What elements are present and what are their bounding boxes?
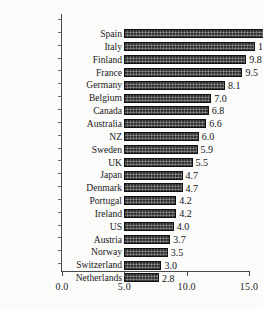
x-axis-tick: [62, 272, 63, 276]
bar-value-label: 7.0: [214, 93, 227, 104]
bar-value-label: 10.5: [258, 41, 263, 52]
y-axis-tick: [58, 225, 61, 226]
bar-row: Germany8.1: [62, 79, 263, 92]
category-label: NZ: [109, 131, 122, 142]
category-label: Switzerland: [76, 259, 122, 270]
bar-chart-figure: Spain14.1Italy10.5Finland9.8France9.5Ger…: [0, 0, 263, 309]
y-axis-tick: [58, 250, 61, 251]
y-axis-tick: [58, 135, 61, 136]
category-label: Portugal: [89, 195, 122, 206]
bar: [124, 68, 242, 77]
bar-value-label: 5.9: [201, 144, 214, 155]
bar-row: Finland9.8: [62, 54, 263, 67]
bar-value-label: 4.2: [179, 195, 192, 206]
bar-row: Canada6.8: [62, 105, 263, 118]
bar: [124, 55, 246, 64]
bar-row: Japan4.7: [62, 169, 263, 182]
y-axis-tick: [58, 148, 61, 149]
bar-value-label: 3.5: [171, 247, 184, 258]
category-label: Japan: [100, 169, 122, 180]
bar: [124, 132, 199, 141]
category-label: Germany: [86, 79, 122, 90]
bar-value-label: 4.2: [179, 208, 192, 219]
bar: [124, 196, 176, 205]
y-axis-tick: [58, 122, 61, 123]
bar-row: UK5.5: [62, 157, 263, 170]
category-label: Australia: [87, 118, 122, 129]
bar-value-label: 4.7: [186, 170, 199, 181]
bar-row: US4.0: [62, 221, 263, 234]
bar: [124, 222, 174, 231]
y-axis-tick: [58, 173, 61, 174]
bar: [124, 81, 225, 90]
bar: [124, 183, 183, 192]
bar-value-label: 4.7: [186, 183, 199, 194]
bar-row: Australia6.6: [62, 118, 263, 131]
category-label: Spain: [100, 28, 122, 39]
category-label: Austria: [94, 234, 122, 245]
y-axis-tick: [58, 212, 61, 213]
x-axis-tick: [249, 272, 250, 276]
category-label: US: [110, 221, 122, 232]
bar: [124, 145, 198, 154]
plot-area: Spain14.1Italy10.5Finland9.8France9.5Ger…: [62, 14, 249, 271]
bar-value-label: 2.8: [162, 273, 175, 284]
x-axis-tick-label: 0.0: [55, 281, 68, 292]
bar-value-label: 5.5: [196, 157, 209, 168]
bar: [124, 209, 176, 218]
category-label: UK: [108, 157, 122, 168]
category-label: Italy: [104, 41, 122, 52]
bar: [124, 261, 161, 270]
y-axis-tick: [58, 263, 61, 264]
category-label: Belgium: [89, 92, 122, 103]
bar-value-label: 3.0: [164, 260, 177, 271]
bar: [124, 29, 263, 38]
bar-row: Norway3.5: [62, 246, 263, 259]
category-label: Norway: [91, 246, 122, 257]
y-axis-line: [61, 14, 62, 272]
y-axis-tick: [58, 186, 61, 187]
bar-value-label: 8.1: [228, 80, 241, 91]
bar-value-label: 9.5: [245, 67, 258, 78]
category-label: Canada: [93, 105, 122, 116]
bar: [124, 235, 170, 244]
bar-value-label: 3.7: [173, 234, 186, 245]
bar-row: Portugal4.2: [62, 195, 263, 208]
y-axis-tick: [58, 237, 61, 238]
bar-row: France9.5: [62, 67, 263, 80]
bar-value-label: 4.0: [177, 221, 190, 232]
bar: [124, 94, 211, 103]
y-axis-tick: [58, 19, 61, 20]
category-label: Sweden: [92, 144, 122, 155]
x-axis-line: [61, 271, 250, 272]
category-label: France: [96, 67, 122, 78]
y-axis-tick: [58, 45, 61, 46]
y-axis-tick: [58, 58, 61, 59]
bar: [124, 248, 168, 257]
y-axis-tick: [58, 160, 61, 161]
y-axis-tick: [58, 70, 61, 71]
category-label: Ireland: [95, 208, 122, 219]
bar-value-label: 6.8: [212, 105, 225, 116]
category-label: Netherlands: [76, 272, 122, 283]
bar-row: Spain14.1: [62, 28, 263, 41]
x-axis-tick-label: 15.0: [240, 281, 258, 292]
bar-row: Netherlands2.8: [62, 272, 263, 285]
bar-row: NZ6.0: [62, 131, 263, 144]
bar-value-label: 9.8: [249, 54, 262, 65]
bar-row: Belgium7.0: [62, 92, 263, 105]
bar-row: Austria3.7: [62, 234, 263, 247]
y-axis-tick: [58, 199, 61, 200]
bar: [124, 42, 255, 51]
bar-row: Italy10.5: [62, 41, 263, 54]
bar-row: Sweden5.9: [62, 144, 263, 157]
category-label: Finland: [93, 54, 122, 65]
bar-row: Ireland4.2: [62, 208, 263, 221]
bar: [124, 158, 193, 167]
y-axis-tick: [58, 32, 61, 33]
category-label: Denmark: [86, 182, 122, 193]
y-axis-tick: [58, 83, 61, 84]
bar: [124, 119, 206, 128]
y-axis-tick: [58, 96, 61, 97]
x-axis-tick-label: 5.0: [118, 281, 131, 292]
